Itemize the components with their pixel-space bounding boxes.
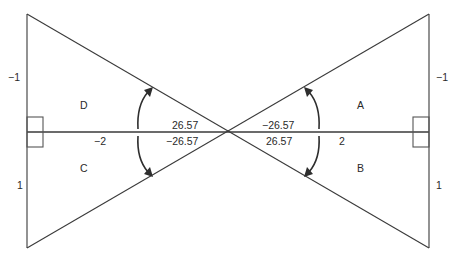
right-bottom-side-label: 1	[436, 179, 442, 191]
right-top-side-label: −1	[436, 71, 448, 83]
left-top-side-label: −1	[8, 71, 20, 83]
bowtie-diagram: D C A B −1 1 −1 1 −2 2 26.57 −26.57 −26.…	[0, 0, 457, 264]
right-upper-angle-arrow-icon	[304, 87, 319, 129]
quadrant-label-a: A	[357, 99, 364, 111]
angle-label-right-upper: −26.57	[262, 119, 295, 131]
left-upper-angle-arrow-icon	[138, 87, 153, 129]
angle-label-right-lower: 26.57	[266, 135, 292, 147]
right-lower-angle-arrow-icon	[304, 136, 319, 177]
left-horizontal-label: −2	[94, 135, 106, 147]
quadrant-label-c: C	[80, 162, 88, 174]
angle-label-left-lower: −26.57	[166, 135, 199, 147]
angle-label-left-upper: 26.57	[172, 119, 198, 131]
quadrant-label-b: B	[357, 162, 364, 174]
left-lower-angle-arrow-icon	[138, 136, 153, 177]
right-horizontal-label: 2	[339, 135, 345, 147]
left-bottom-side-label: 1	[17, 179, 23, 191]
quadrant-label-d: D	[80, 99, 88, 111]
